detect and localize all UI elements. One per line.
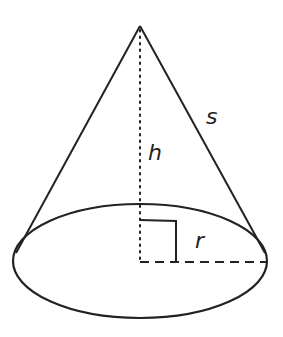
cone-left-side bbox=[16, 26, 140, 253]
radius-label: r bbox=[195, 228, 206, 253]
slant-label: s bbox=[206, 104, 217, 129]
height-label: h bbox=[148, 140, 162, 165]
cone-diagram: s h r bbox=[0, 0, 283, 337]
right-angle-marker bbox=[140, 220, 176, 262]
